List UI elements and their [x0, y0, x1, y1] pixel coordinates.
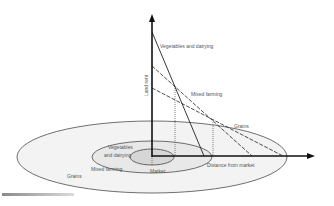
zone-label-vegetables-line2: and dairying	[104, 152, 131, 158]
curve-label-grains: Grains	[234, 123, 249, 129]
curve-label-mixed-farming: Mixed farming	[191, 91, 223, 97]
y-axis-label: Land rent	[143, 74, 149, 96]
zone-label-grains: Grains	[67, 173, 82, 179]
zone-label-vegetables-line1: Vegetables	[108, 144, 133, 150]
zone-label-market: Market	[150, 168, 166, 174]
zone-label-mixed-farming: Mixed farming	[91, 166, 123, 172]
curve-label-vegetables: Vegetables and dairying	[160, 43, 214, 49]
von-thunen-diagram: Land rent Distance from market Vegetable…	[0, 0, 334, 206]
decorative-bottom-bar	[2, 193, 74, 196]
x-axis-arrow-icon	[307, 153, 315, 159]
x-axis-label: Distance from market	[207, 162, 255, 168]
y-axis-arrow-icon	[149, 14, 155, 22]
